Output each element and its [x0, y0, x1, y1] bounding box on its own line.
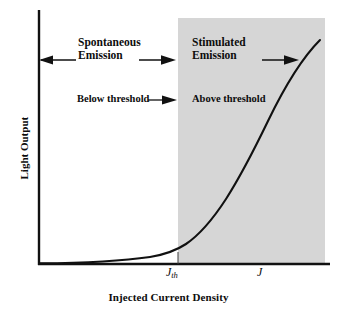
spontaneous-emission-left-arrow — [39, 55, 76, 64]
below-to-above-threshold-arrow — [148, 96, 177, 105]
x-tick-label-threshold: Jth — [166, 266, 178, 281]
spontaneous-emission-label-line2: Emission — [78, 49, 141, 62]
light-output-vs-current-density-figure: Spontaneous Emission Stimulated Emission… — [0, 0, 337, 314]
stimulated-emission-label: Stimulated Emission — [192, 36, 246, 62]
below-threshold-label: Below threshold — [77, 93, 149, 105]
stimulated-emission-label-line2: Emission — [192, 49, 246, 62]
x-axis-title: Injected Current Density — [0, 291, 337, 303]
above-threshold-label: Above threshold — [192, 93, 266, 105]
y-axis-title: Light Output — [18, 88, 30, 208]
spontaneous-emission-right-arrow — [139, 55, 176, 65]
stimulated-emission-label-line1: Stimulated — [192, 36, 246, 49]
x-tick-threshold-subscript: th — [171, 270, 177, 280]
x-tick-label-current: J — [257, 266, 262, 279]
spontaneous-emission-label: Spontaneous Emission — [78, 36, 141, 62]
spontaneous-emission-label-line1: Spontaneous — [78, 36, 141, 49]
